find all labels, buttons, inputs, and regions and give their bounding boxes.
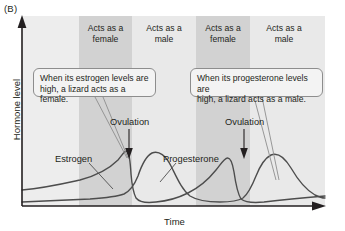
band-label-male-1: Acts as a male [132,23,196,44]
progesterone-callout-line2: high, a lizard acts as a male. [197,94,317,105]
band-label-line2: male [250,34,318,45]
x-axis-title-text: Time [160,216,185,227]
estrogen-curve-label: Estrogen [55,154,92,164]
estrogen-callout-line2: high, a lizard acts as a female. [40,84,150,105]
progesterone-curve-label: Progesterone [163,154,219,164]
progesterone-callout: When its progesterone levels are high, a… [190,68,323,97]
x-axis-title: Time [0,216,345,227]
band-label-line1: Acts as a [250,23,318,34]
band-male-2 [250,16,325,206]
ovulation-label-2: Ovulation [225,117,264,127]
band-label-line1: Acts as a [196,23,250,34]
band-label-line1: Acts as a [132,23,196,34]
band-label-line2: female [196,34,250,45]
band-female-2 [196,16,250,206]
estrogen-callout: When its estrogen levels are high, a liz… [33,68,156,97]
band-label-female-2: Acts as a female [196,23,250,44]
band-label-male-2: Acts as a male [250,23,318,44]
band-label-line2: male [132,34,196,45]
progesterone-callout-line1: When its progesterone levels are [197,73,317,94]
band-label-line1: Acts as a [79,23,132,34]
figure-panel-b: (B) A [0,0,345,231]
ovulation-label-1: Ovulation [110,117,149,127]
y-axis-title: Hormone level [11,62,22,158]
band-label-line2: female [79,34,132,45]
estrogen-callout-line1: When its estrogen levels are [40,73,150,84]
band-label-female-1: Acts as a female [79,23,132,44]
